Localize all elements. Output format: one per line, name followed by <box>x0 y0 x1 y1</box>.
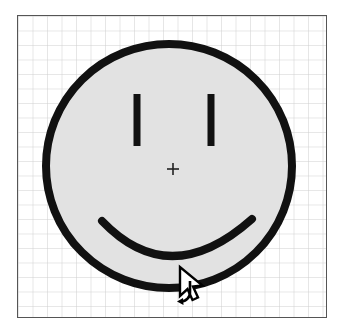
smiley-face-outline[interactable] <box>46 44 292 288</box>
application-window <box>0 0 346 333</box>
drawing-canvas[interactable] <box>17 15 327 318</box>
drawing-layer[interactable] <box>18 16 326 317</box>
